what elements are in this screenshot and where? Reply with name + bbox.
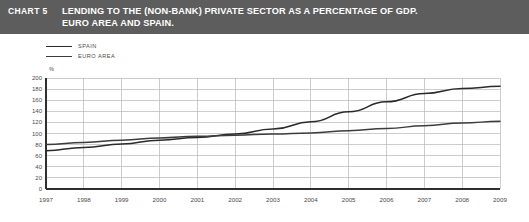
x-tick-label: 2002 bbox=[215, 196, 255, 203]
x-tick-label: 2004 bbox=[291, 196, 331, 203]
x-tick-label: 2000 bbox=[140, 196, 180, 203]
x-tick-label: 2005 bbox=[329, 196, 369, 203]
y-tick-label: 100 bbox=[20, 131, 42, 137]
x-tick-label: 2006 bbox=[367, 196, 407, 203]
chart-canvas bbox=[0, 0, 529, 222]
x-tick-label: 1998 bbox=[64, 196, 104, 203]
y-tick-label: 80 bbox=[20, 142, 42, 148]
x-tick-label: 1997 bbox=[26, 196, 66, 203]
y-tick-label: 60 bbox=[20, 153, 42, 159]
chart-figure: CHART 5 LENDING TO THE (NON-BANK) PRIVAT… bbox=[0, 0, 529, 222]
y-tick-label: 200 bbox=[20, 75, 42, 81]
x-tick-label: 2009 bbox=[480, 196, 520, 203]
y-tick-label: 160 bbox=[20, 97, 42, 103]
plot-area: 020406080100120140160180200 199719981999… bbox=[0, 0, 529, 222]
x-tick-label: 2001 bbox=[177, 196, 217, 203]
y-tick-label: 120 bbox=[20, 119, 42, 125]
x-tick-label: 2008 bbox=[442, 196, 482, 203]
y-tick-label: 180 bbox=[20, 86, 42, 92]
x-tick-label: 2003 bbox=[253, 196, 293, 203]
x-tick-label: 2007 bbox=[404, 196, 444, 203]
y-tick-label: 0 bbox=[20, 186, 42, 192]
y-tick-label: 140 bbox=[20, 108, 42, 114]
y-tick-label: 20 bbox=[20, 175, 42, 181]
x-tick-label: 1999 bbox=[102, 196, 142, 203]
y-tick-label: 40 bbox=[20, 164, 42, 170]
